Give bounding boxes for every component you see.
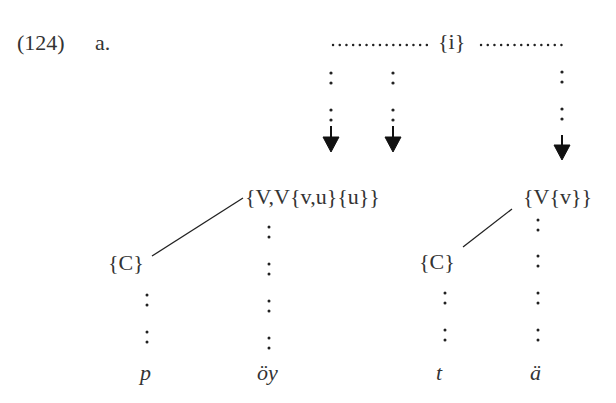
association-dots-c-right — [444, 292, 447, 342]
association-dots-top — [329, 70, 563, 121]
arrow-down-icon — [385, 126, 401, 152]
arrow-down-icon — [554, 135, 570, 160]
segment-p: p — [140, 362, 151, 384]
association-dots-v-complex — [268, 226, 271, 350]
branch-line-left — [152, 198, 243, 256]
segment-t: t — [436, 362, 442, 384]
segment-oy: öy — [257, 362, 278, 384]
tier-label-i: {i} — [438, 31, 465, 53]
node-c-left: {C} — [108, 252, 144, 274]
association-dots-v-simple — [537, 219, 540, 342]
node-c-right: {C} — [419, 251, 455, 273]
branch-line-right — [463, 209, 512, 247]
arrow-down-icon — [323, 126, 339, 152]
node-v-simple: {V{v}} — [523, 186, 592, 208]
node-v-complex: {V,V{v,u}{u}} — [245, 186, 380, 208]
segment-a: ä — [530, 362, 541, 384]
association-dots-c-left — [146, 294, 149, 344]
